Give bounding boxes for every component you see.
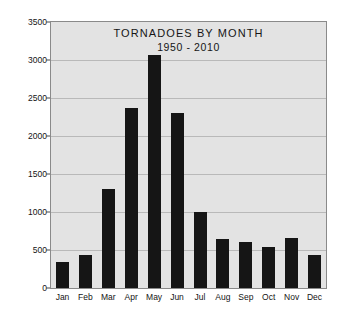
- bar: [239, 242, 252, 288]
- bar: [171, 113, 184, 288]
- gridline: [51, 174, 326, 175]
- bar: [79, 255, 92, 288]
- plot-area: [50, 21, 327, 289]
- bar: [194, 212, 207, 288]
- bar: [308, 255, 321, 288]
- chart-figure: Number of Tornadoes 05001000150020002500…: [0, 0, 341, 318]
- y-tick-label: 1500: [13, 169, 47, 179]
- bar: [285, 238, 298, 288]
- gridline: [51, 136, 326, 137]
- y-tick-label: 2000: [13, 131, 47, 141]
- y-tick-label: 500: [13, 245, 47, 255]
- bar: [148, 55, 161, 288]
- y-tick-label: 2500: [13, 93, 47, 103]
- gridline: [51, 212, 326, 213]
- y-tick-label: 1000: [13, 207, 47, 217]
- bar: [262, 247, 275, 288]
- gridline: [51, 60, 326, 61]
- bar: [125, 108, 138, 288]
- gridline: [51, 98, 326, 99]
- bar: [102, 189, 115, 288]
- y-tick-label: 0: [13, 283, 47, 293]
- y-tick-label: 3500: [13, 17, 47, 27]
- x-tick-label: Dec: [300, 292, 330, 302]
- y-tick-label: 3000: [13, 55, 47, 65]
- bar: [56, 262, 69, 288]
- bar: [216, 239, 229, 288]
